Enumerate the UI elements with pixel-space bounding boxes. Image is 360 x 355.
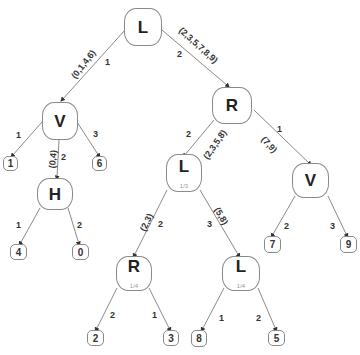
edge-label-vleft-h-branch: 2 — [61, 153, 66, 162]
node-v-left: V — [42, 102, 78, 140]
node-l-mid: L 1/3 — [166, 154, 202, 192]
node-v-right: V — [292, 163, 329, 198]
edge-h-leaf4 — [20, 208, 40, 244]
edge-label-root-vleft-branch: 1 — [105, 58, 110, 67]
edge-rlow-leaf2 — [96, 288, 117, 330]
edge-label-h-leaf4-branch: 1 — [16, 221, 21, 230]
edge-label-llow-leaf8-branch: 1 — [219, 314, 224, 323]
edge-label-vright-leaf7-branch: 2 — [284, 222, 289, 231]
edge-label-vleft-h-set: (0,4) — [48, 150, 59, 169]
node-l-low: L 1/4 — [222, 256, 260, 291]
edge-root-vleft — [62, 30, 125, 100]
edge-label-rlow-leaf3-branch: 1 — [152, 311, 157, 320]
edge-label-vright-leaf9-branch: 3 — [330, 222, 335, 231]
node-sublabel: 1/4 — [237, 283, 245, 289]
node-label: H — [49, 186, 61, 203]
leaf-2: 2 — [87, 330, 104, 346]
leaf-0: 0 — [72, 244, 89, 260]
node-label: L — [138, 19, 148, 36]
edge-label-rlow-leaf2-branch: 2 — [110, 311, 115, 320]
edge-label-llow-leaf5-branch: 2 — [256, 314, 261, 323]
leaf-1: 1 — [3, 156, 18, 171]
node-h: H — [37, 178, 73, 210]
edge-label-root-rmid-branch: 2 — [177, 50, 182, 59]
edge-label-lmid-rlow-branch: 2 — [158, 220, 163, 229]
node-label: R — [128, 258, 140, 275]
edge-vleft-leaf6 — [77, 122, 99, 156]
node-root: L — [124, 8, 162, 46]
edge-label-lmid-llow-branch: 3 — [207, 220, 212, 229]
node-label: V — [305, 172, 316, 189]
leaf-8: 8 — [191, 330, 207, 347]
edge-label-rmid-vright-branch: 1 — [277, 125, 282, 134]
node-sublabel: 1/3 — [180, 183, 188, 189]
node-label: V — [54, 113, 65, 130]
edge-rlow-leaf3 — [149, 288, 170, 330]
edge-label-vleft-leaf6-branch: 3 — [93, 130, 98, 139]
edge-label-h-leaf0-branch: 2 — [77, 221, 82, 230]
node-label: L — [236, 258, 246, 275]
leaf-9: 9 — [340, 236, 357, 253]
edge-label-vleft-leaf1-branch: 1 — [16, 131, 21, 140]
node-r-mid: R — [212, 87, 252, 124]
leaf-6: 6 — [92, 156, 107, 171]
leaf-4: 4 — [10, 244, 27, 260]
node-label: R — [226, 97, 238, 114]
node-r-low: R 1/4 — [116, 256, 152, 291]
leaf-5: 5 — [268, 330, 285, 346]
edge-label-rmid-lmid-branch: 2 — [186, 130, 191, 139]
leaf-3: 3 — [163, 330, 179, 346]
node-label: L — [179, 158, 189, 175]
node-sublabel: 1/4 — [130, 283, 138, 289]
leaf-7: 7 — [264, 236, 281, 253]
edge-llow-leaf8 — [202, 288, 224, 330]
edge-llow-leaf5 — [258, 288, 276, 330]
